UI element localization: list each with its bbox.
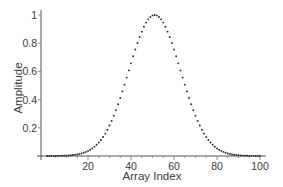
data-point bbox=[51, 155, 53, 157]
data-point bbox=[91, 147, 93, 149]
data-point bbox=[113, 115, 115, 117]
y-tick-label: 0.4 bbox=[22, 94, 37, 106]
data-point bbox=[141, 31, 143, 33]
data-point bbox=[59, 155, 61, 157]
data-point bbox=[102, 136, 104, 138]
data-point bbox=[46, 155, 48, 157]
data-point bbox=[78, 153, 80, 155]
data-point bbox=[167, 31, 169, 33]
data-point bbox=[55, 155, 57, 157]
data-point bbox=[233, 154, 235, 156]
data-point bbox=[253, 155, 255, 157]
data-point bbox=[89, 149, 91, 151]
data-point bbox=[61, 155, 63, 157]
data-point bbox=[130, 62, 132, 64]
y-tick-label: 0.8 bbox=[22, 37, 37, 49]
data-point bbox=[197, 120, 199, 122]
data-point bbox=[223, 151, 225, 153]
data-point bbox=[235, 154, 237, 156]
data-point bbox=[111, 120, 113, 122]
amplitude-chart: 0.20.40.60.81 Amplitude 20406080100 Arra… bbox=[0, 0, 283, 187]
data-point bbox=[242, 155, 244, 157]
data-point bbox=[182, 77, 184, 79]
data-point bbox=[137, 42, 139, 44]
data-point bbox=[158, 16, 160, 18]
data-point bbox=[203, 133, 205, 135]
data-point bbox=[199, 125, 201, 127]
data-point bbox=[87, 150, 89, 152]
data-point bbox=[94, 146, 96, 148]
data-point bbox=[48, 155, 50, 157]
x-axis: 20406080100 Array Index bbox=[37, 156, 269, 182]
data-point bbox=[175, 55, 177, 57]
y-axis-title: Amplitude bbox=[12, 62, 24, 113]
data-point bbox=[207, 139, 209, 141]
data-point bbox=[70, 154, 72, 156]
data-point bbox=[225, 152, 227, 154]
x-tick-label: 100 bbox=[251, 160, 269, 172]
data-point bbox=[134, 49, 136, 51]
data-point bbox=[156, 14, 158, 16]
data-point bbox=[173, 49, 175, 51]
data-point bbox=[74, 154, 76, 156]
data-point bbox=[53, 155, 55, 157]
y-tick-label: 0.6 bbox=[22, 65, 37, 77]
data-point bbox=[76, 154, 78, 156]
data-point bbox=[160, 18, 162, 20]
data-point bbox=[195, 115, 197, 117]
data-point bbox=[152, 14, 154, 16]
data-point bbox=[184, 84, 186, 86]
data-point bbox=[143, 26, 145, 28]
data-point bbox=[147, 18, 149, 20]
data-point bbox=[68, 154, 70, 156]
data-point bbox=[115, 109, 117, 111]
data-point bbox=[214, 146, 216, 148]
data-point bbox=[145, 22, 147, 24]
data-point bbox=[100, 139, 102, 141]
data-point bbox=[106, 129, 108, 131]
y-tick-label: 0.2 bbox=[22, 122, 37, 134]
data-point bbox=[231, 154, 233, 156]
data-point bbox=[72, 154, 74, 156]
data-point bbox=[121, 90, 123, 92]
data-point bbox=[109, 125, 111, 127]
data-point bbox=[96, 144, 98, 146]
data-point bbox=[259, 155, 261, 157]
data-point bbox=[216, 147, 218, 149]
data-point bbox=[126, 77, 128, 79]
data-point bbox=[246, 155, 248, 157]
data-point bbox=[227, 153, 229, 155]
data-point bbox=[124, 84, 126, 86]
data-point bbox=[205, 136, 207, 138]
data-point bbox=[244, 155, 246, 157]
data-point bbox=[169, 36, 171, 38]
x-axis-title: Array Index bbox=[123, 170, 182, 182]
data-point bbox=[63, 155, 65, 157]
data-point bbox=[132, 55, 134, 57]
data-point bbox=[83, 152, 85, 154]
data-point bbox=[210, 142, 212, 144]
data-point bbox=[162, 22, 164, 24]
data-point bbox=[201, 129, 203, 131]
data-point bbox=[81, 153, 83, 155]
data-point bbox=[154, 14, 156, 16]
data-point bbox=[164, 26, 166, 28]
data-point bbox=[139, 36, 141, 38]
data-point bbox=[250, 155, 252, 157]
data-point bbox=[177, 62, 179, 64]
y-ticks: 0.20.40.60.81 bbox=[22, 9, 41, 134]
data-points bbox=[46, 14, 261, 157]
data-point bbox=[188, 97, 190, 99]
x-tick-label: 20 bbox=[82, 160, 94, 172]
data-point bbox=[248, 155, 250, 157]
data-point bbox=[238, 154, 240, 156]
data-point bbox=[66, 155, 68, 157]
data-point bbox=[128, 69, 130, 71]
y-axis: 0.20.40.60.81 Amplitude bbox=[12, 9, 41, 160]
data-point bbox=[117, 103, 119, 105]
data-point bbox=[119, 97, 121, 99]
data-point bbox=[186, 90, 188, 92]
data-point bbox=[104, 133, 106, 135]
data-point bbox=[190, 103, 192, 105]
data-point bbox=[218, 149, 220, 151]
